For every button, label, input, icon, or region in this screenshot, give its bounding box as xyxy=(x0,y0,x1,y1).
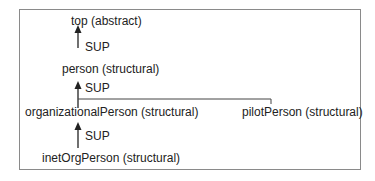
node-pilot-person: pilotPerson (structural) xyxy=(242,105,363,119)
node-organizational-person: organizationalPerson (structural) xyxy=(25,105,198,119)
node-person: person (structural) xyxy=(62,62,159,76)
edge-label-sup: SUP xyxy=(85,40,110,54)
node-top: top (abstract) xyxy=(71,14,142,28)
edge-label-sup: SUP xyxy=(85,81,110,95)
edge-label-sup: SUP xyxy=(85,129,110,143)
arrow-head-icon xyxy=(75,81,82,89)
node-inet-org-person: inetOrgPerson (structural) xyxy=(42,151,180,165)
arrow-head-icon xyxy=(75,122,82,130)
